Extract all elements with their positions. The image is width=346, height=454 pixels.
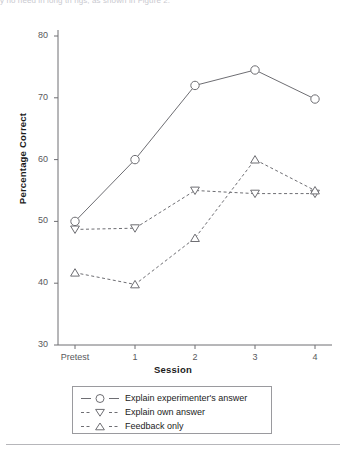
- footer-divider: [6, 444, 340, 445]
- open-circle-marker-icon: [79, 391, 121, 404]
- data-point-down-triangle: [71, 226, 80, 233]
- chart-legend: Explain experimenter's answer Explain ow…: [72, 386, 272, 434]
- x-tick-label: 3: [225, 352, 285, 362]
- x-axis-ticks: [75, 345, 315, 349]
- y-tick-label: 30: [26, 339, 48, 349]
- series-line-2: [75, 191, 315, 230]
- y-tick-label: 80: [26, 30, 48, 40]
- legend-label: Feedback only: [121, 421, 184, 431]
- chart-series-markers: [71, 66, 320, 288]
- series-line-1: [75, 70, 315, 221]
- data-point-up-triangle: [131, 280, 140, 287]
- x-tick-label: Pretest: [45, 352, 105, 362]
- chart-canvas: [0, 0, 346, 380]
- data-point-up-triangle: [71, 269, 80, 276]
- legend-item: Explain own answer: [79, 405, 271, 418]
- y-tick-label: 50: [26, 215, 48, 225]
- data-point-open-circle: [71, 217, 79, 225]
- x-tick-label: 4: [285, 352, 345, 362]
- data-point-open-circle: [251, 66, 259, 74]
- series-line-3: [75, 160, 315, 285]
- y-tick-label: 60: [26, 154, 48, 164]
- legend-item: Explain experimenter's answer: [79, 391, 271, 404]
- x-tick-label: 1: [105, 352, 165, 362]
- y-tick-label: 70: [26, 92, 48, 102]
- x-axis-label: Session: [0, 364, 346, 375]
- data-point-up-triangle: [251, 156, 260, 163]
- data-point-open-circle: [131, 155, 139, 163]
- y-axis-ticks: [54, 36, 58, 345]
- up-triangle-marker-icon: [79, 419, 121, 432]
- legend-label: Explain own answer: [121, 407, 205, 417]
- figure-page: y no need in long th ngs, as shown in Fi…: [0, 0, 346, 454]
- line-chart: Percentage Correct Session 304050607080 …: [0, 0, 346, 380]
- x-tick-label: 2: [165, 352, 225, 362]
- legend-item: Feedback only: [79, 419, 271, 432]
- data-point-open-circle: [311, 95, 319, 103]
- down-triangle-marker-icon: [79, 405, 121, 418]
- legend-label: Explain experimenter's answer: [121, 393, 247, 403]
- data-point-up-triangle: [191, 234, 200, 241]
- data-point-open-circle: [191, 81, 199, 89]
- y-tick-label: 40: [26, 277, 48, 287]
- chart-series-lines: [75, 70, 315, 284]
